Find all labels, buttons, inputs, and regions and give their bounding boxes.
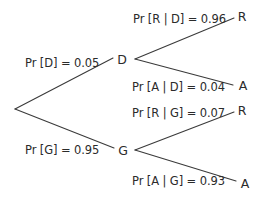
edge-label-pr-a-given-d: Pr [A | D] = 0.04 [132, 80, 225, 94]
node-g-r: R [238, 104, 247, 118]
node-g-a: A [241, 177, 250, 191]
edge-label-pr-a-given-g: Pr [A | G] = 0.93 [132, 174, 225, 188]
edge-label-pr-r-given-g: Pr [R | G] = 0.07 [132, 106, 225, 120]
probability-tree-diagram: Pr [D] = 0.05 Pr [G] = 0.95 Pr [R | D] =… [0, 0, 265, 203]
node-d: D [117, 53, 127, 67]
node-g: G [118, 144, 128, 158]
edge-label-pr-r-given-d: Pr [R | D] = 0.96 [133, 12, 226, 26]
tree-edges [0, 0, 265, 203]
node-d-r: R [238, 10, 247, 24]
edge-label-pr-g: Pr [G] = 0.95 [25, 143, 99, 157]
node-d-a: A [239, 79, 248, 93]
edge-label-pr-d: Pr [D] = 0.05 [25, 56, 99, 70]
